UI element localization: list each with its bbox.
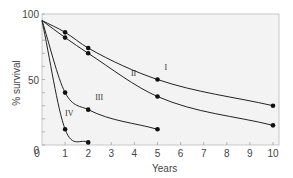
curve-label-ii: II [131,69,137,78]
y-axis-title: % survival [11,60,22,106]
curve-label-iii: III [95,93,103,102]
x-tick-label: 10 [267,148,279,159]
data-point [86,107,91,112]
curve-label-i: I [164,63,167,72]
y-tick-label: 100 [22,9,39,20]
x-tick-label: 7 [201,148,207,159]
plot-area [42,14,279,145]
data-point [86,46,91,51]
curve-label-iv: IV [65,109,74,118]
x-tick-label: 0 [34,148,40,159]
data-point [63,35,68,40]
survival-chart: 050100 012345678910 IIIIIIIV Years % sur… [0,0,293,178]
data-point [155,94,160,99]
x-tick-label: 3 [109,148,115,159]
data-point [63,30,68,35]
data-point [86,140,91,145]
data-point [63,90,68,95]
x-tick-label: 6 [178,148,184,159]
data-point [271,123,276,128]
y-tick-label: 50 [28,75,40,86]
data-point [86,51,91,56]
x-tick-label: 1 [62,148,68,159]
x-tick-label: 5 [155,148,161,159]
x-axis-title: Years [152,163,177,174]
data-point [155,127,160,132]
data-point [271,103,276,108]
y-axis: 050100 [22,9,45,156]
x-tick-label: 4 [132,148,138,159]
x-tick-label: 8 [224,148,230,159]
data-point [63,127,68,132]
x-tick-label: 2 [85,148,91,159]
x-tick-label: 9 [247,148,253,159]
data-point [155,77,160,82]
